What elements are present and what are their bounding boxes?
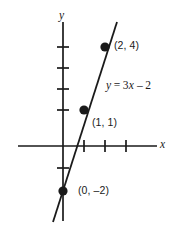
data-point-2-4 xyxy=(100,42,109,51)
data-point-0-neg2 xyxy=(58,186,67,195)
equation-relation: = xyxy=(114,79,121,91)
point-label-0-neg2: (0, –2) xyxy=(78,184,109,196)
equation-lhs: y xyxy=(106,79,111,91)
data-point-1-1 xyxy=(79,105,88,114)
y-axis-label: y xyxy=(59,9,64,21)
point-label-1-1: (1, 1) xyxy=(92,116,117,128)
equation-label: y=3x–2 xyxy=(106,79,151,91)
equation-variable: x xyxy=(129,79,134,91)
point-label-2-4: (2, 4) xyxy=(114,39,139,51)
equation-intercept: 2 xyxy=(145,79,151,91)
equation-operator: – xyxy=(137,79,143,91)
x-axis-label: x xyxy=(160,138,165,150)
